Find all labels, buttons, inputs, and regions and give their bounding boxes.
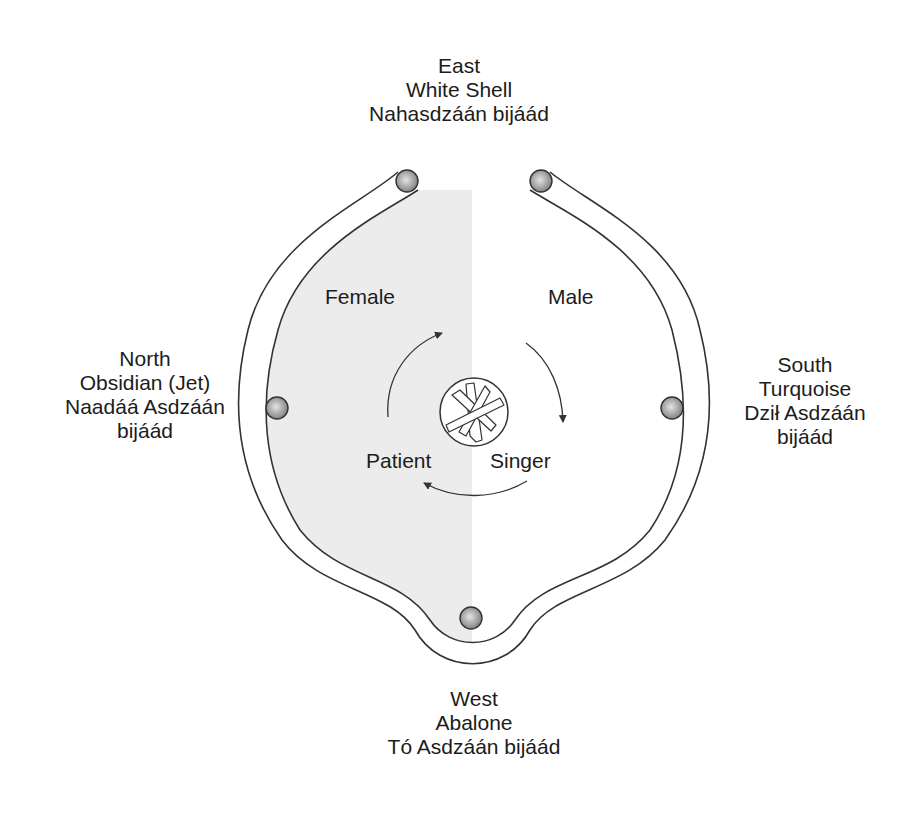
crossed-sticks-fire-icon [440,378,508,446]
east-label: East White Shell Nahasdzáán bijáád [344,54,574,126]
north-navajo: Naadáá Asdzáán [60,395,230,419]
female-label: Female [325,285,395,309]
south-material: Turquoise [725,377,885,401]
patient-label: Patient [366,449,431,473]
south-direction: South [725,353,885,377]
west-direction: West [364,687,584,711]
shell-bead-icon [396,170,418,192]
singer-label: Singer [490,449,551,473]
north-direction: North [60,347,230,371]
north-navajo-cont: bijáád [60,419,230,443]
arrow-male-to-singer [526,343,563,422]
south-label: South Turquoise Dził Asdzáán bijáád [725,353,885,449]
shell-bead-icon [661,397,683,419]
male-label: Male [548,285,594,309]
east-direction: East [344,54,574,78]
east-navajo: Nahasdzáán bijáád [344,102,574,126]
east-material: White Shell [344,78,574,102]
west-material: Abalone [364,711,584,735]
north-material: Obsidian (Jet) [60,371,230,395]
shell-bead-icon [460,607,482,629]
shell-bead-icon [530,170,552,192]
south-navajo-cont: bijáád [725,425,885,449]
south-navajo: Dził Asdzáán [725,401,885,425]
north-label: North Obsidian (Jet) Naadáá Asdzáán bijá… [60,347,230,443]
shell-bead-icon [266,397,288,419]
west-label: West Abalone Tó Asdzáán bijáád [364,687,584,759]
west-navajo: Tó Asdzáán bijáád [364,735,584,759]
